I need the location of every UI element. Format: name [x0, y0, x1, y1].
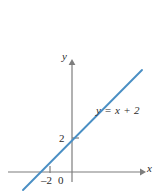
x-intercept-tick-label: –2 [41, 175, 52, 186]
x-axis-arrowhead [140, 169, 146, 176]
y-intercept-tick-label: 2 [59, 133, 65, 144]
coordinate-plot [0, 0, 158, 194]
equation-annotation: y = x + 2 [96, 105, 140, 116]
origin-label: 0 [58, 175, 64, 186]
y-axis-label: y [62, 51, 67, 62]
graph-figure: y x 2 0 –2 y = x + 2 [0, 0, 158, 194]
y-axis-arrowhead [69, 59, 76, 65]
x-axis-label: x [147, 163, 152, 174]
